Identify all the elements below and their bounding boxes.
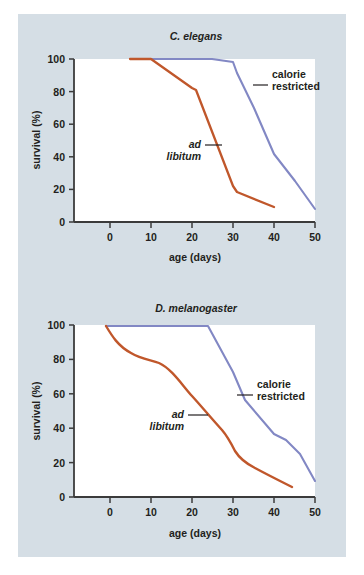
callout-ad-libitum-line1-1: ad bbox=[189, 138, 202, 150]
callout-ad-libitum-line2-2: libitum bbox=[150, 420, 184, 432]
figure-page: C. elegans 100 80 60 40 20 0 bbox=[0, 0, 364, 575]
y-tick-label-0-1: 0 bbox=[59, 216, 65, 228]
x-tick-label-10-2: 10 bbox=[145, 506, 157, 518]
y-tick-label-40-2: 40 bbox=[53, 422, 65, 434]
y-tick-label-20-1: 20 bbox=[53, 183, 65, 195]
callout-calorie-restricted-line1-1: calorie bbox=[272, 68, 306, 80]
callout-ad-libitum-line1-2: ad bbox=[172, 408, 185, 420]
y-tick-label-20-2: 20 bbox=[53, 457, 65, 469]
chart-c-elegans: C. elegans 100 80 60 40 20 0 bbox=[30, 30, 321, 263]
callout-calorie-restricted-line1-2: calorie bbox=[257, 378, 291, 390]
x-tick-label-50-2: 50 bbox=[309, 506, 321, 518]
y-tick-label-60-2: 60 bbox=[53, 388, 65, 400]
y-tick-label-0-2: 0 bbox=[59, 491, 65, 503]
x-tick-label-0-1: 0 bbox=[107, 231, 113, 243]
x-tick-label-40-1: 40 bbox=[268, 231, 280, 243]
x-tick-label-30-1: 30 bbox=[227, 231, 239, 243]
x-tick-label-50-1: 50 bbox=[309, 231, 321, 243]
x-tick-label-0-2: 0 bbox=[107, 506, 113, 518]
y-tick-label-100-2: 100 bbox=[47, 319, 65, 331]
x-axis-title-2: age (days) bbox=[169, 527, 221, 539]
y-tick-label-80-2: 80 bbox=[53, 353, 65, 365]
x-tick-label-10-1: 10 bbox=[145, 231, 157, 243]
plot-area-background-2 bbox=[74, 325, 315, 497]
y-tick-label-100-1: 100 bbox=[47, 53, 65, 65]
y-axis-title-1: survival (%) bbox=[30, 111, 42, 170]
x-tick-label-40-2: 40 bbox=[268, 506, 280, 518]
y-axis-title-2: survival (%) bbox=[30, 382, 42, 441]
callout-calorie-restricted-line2-1: restricted bbox=[272, 80, 320, 92]
x-tick-label-20-1: 20 bbox=[186, 231, 198, 243]
callout-calorie-restricted-line2-2: restricted bbox=[257, 390, 305, 402]
y-tick-label-60-1: 60 bbox=[53, 118, 65, 130]
callout-ad-libitum-line2-1: libitum bbox=[167, 150, 201, 162]
survival-curves-figure: C. elegans 100 80 60 40 20 0 bbox=[0, 0, 364, 575]
y-tick-label-80-1: 80 bbox=[53, 86, 65, 98]
x-axis-title-1: age (days) bbox=[169, 251, 221, 263]
y-tick-label-40-1: 40 bbox=[53, 151, 65, 163]
chart-title-2: D. melanogaster bbox=[155, 302, 238, 314]
x-tick-label-20-2: 20 bbox=[186, 506, 198, 518]
x-tick-label-30-2: 30 bbox=[227, 506, 239, 518]
chart-title-1: C. elegans bbox=[170, 30, 223, 42]
chart-d-melanogaster: D. melanogaster 100 80 60 40 20 0 bbox=[30, 302, 321, 539]
